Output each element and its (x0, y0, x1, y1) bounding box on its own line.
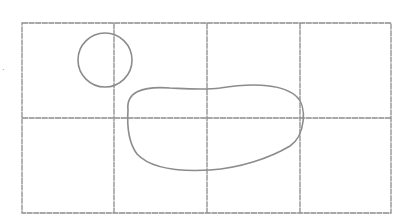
small-circle (78, 33, 132, 87)
pencil-sketch (0, 0, 405, 221)
kidney-blob (128, 85, 304, 170)
shapes (78, 33, 303, 170)
grid (22, 23, 391, 213)
side-mark: · (2, 66, 5, 75)
